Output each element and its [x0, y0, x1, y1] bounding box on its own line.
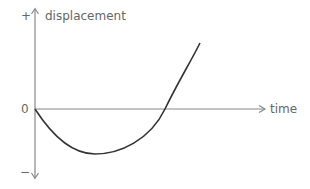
- displacement-curve: [35, 43, 200, 154]
- x-axis-label: time: [270, 103, 297, 115]
- displacement-time-graph: [0, 0, 310, 189]
- y-positive-label: +: [21, 10, 31, 22]
- y-axis-label: displacement: [45, 10, 126, 22]
- y-negative-label: −: [20, 166, 30, 178]
- origin-label: 0: [21, 103, 29, 115]
